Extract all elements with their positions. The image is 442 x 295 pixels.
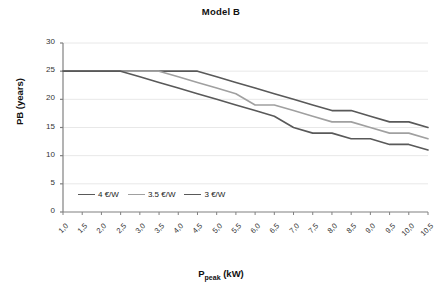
legend-swatch-line [184, 194, 201, 195]
chart-legend: 4 €/W3.5 €/W3 €/W [78, 190, 225, 199]
y-tick-label: 5 [29, 178, 55, 187]
series-line-3 [63, 71, 428, 150]
y-tick-label: 0 [29, 206, 55, 215]
series-line-2 [63, 71, 428, 139]
legend-swatch-line [78, 194, 95, 195]
legend-label: 3.5 €/W [148, 190, 176, 199]
legend-item-3: 3 €/W [184, 190, 225, 199]
y-tick-label: 10 [29, 150, 55, 159]
y-tick-label: 30 [29, 37, 55, 46]
legend-label: 3 €/W [204, 190, 225, 199]
y-tick-label: 25 [29, 65, 55, 74]
legend-item-2: 3.5 €/W [128, 190, 176, 199]
legend-item-1: 4 €/W [78, 190, 119, 199]
legend-swatch-line [128, 194, 145, 195]
chart-figure: Model B PB (years) Ppeak (kW) 0510152025… [0, 0, 442, 295]
y-tick-label: 20 [29, 93, 55, 102]
plot-area [0, 0, 442, 295]
legend-label: 4 €/W [98, 190, 119, 199]
y-tick-label: 15 [29, 122, 55, 131]
